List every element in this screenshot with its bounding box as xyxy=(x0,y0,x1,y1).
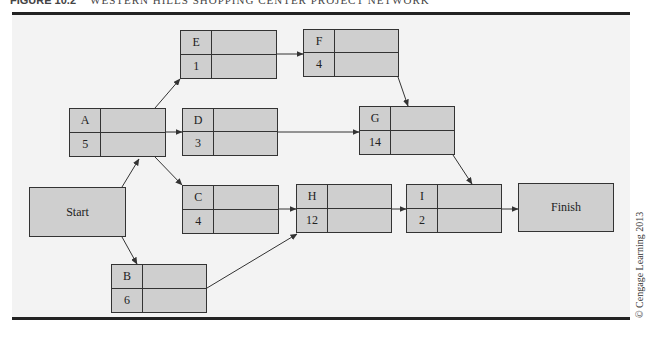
node-es-cell xyxy=(214,109,277,132)
node-es-cell xyxy=(212,31,276,55)
node-start-label: Start xyxy=(66,205,89,220)
node-es-cell xyxy=(214,186,278,210)
node-label: D xyxy=(183,109,214,132)
bottom-rule xyxy=(12,317,630,320)
node-label: H xyxy=(297,185,328,209)
node-ls-cell xyxy=(335,53,398,76)
node-label: A xyxy=(70,109,101,133)
node-duration: 12 xyxy=(297,209,328,233)
node-c: C 4 xyxy=(182,185,279,234)
node-finish-label: Finish xyxy=(551,200,581,215)
node-label: G xyxy=(360,107,391,131)
node-ls-cell xyxy=(143,289,206,313)
node-start: Start xyxy=(29,187,126,237)
node-h: H 12 xyxy=(296,184,392,233)
node-label: E xyxy=(181,31,212,55)
node-ls-cell xyxy=(214,132,277,155)
node-e: E 1 xyxy=(180,30,277,79)
node-d: D 3 xyxy=(182,108,278,156)
edge-b-h xyxy=(207,234,297,288)
node-duration: 4 xyxy=(183,210,214,234)
edge-g-i xyxy=(453,155,472,184)
edge-a-c xyxy=(155,157,182,185)
edge-f-g xyxy=(398,77,408,106)
node-duration: 4 xyxy=(304,53,335,76)
node-duration: 2 xyxy=(407,209,438,233)
node-f: F 4 xyxy=(303,29,399,77)
node-ls-cell xyxy=(214,210,278,234)
node-es-cell xyxy=(391,107,454,131)
node-label: B xyxy=(112,265,143,289)
node-duration: 6 xyxy=(112,289,143,313)
node-ls-cell xyxy=(212,55,276,79)
node-label: C xyxy=(183,186,214,210)
edge-start-b xyxy=(122,237,137,264)
node-duration: 1 xyxy=(181,55,212,79)
node-ls-cell xyxy=(328,209,391,233)
node-i: I 2 xyxy=(406,184,502,233)
edge-start-a xyxy=(122,159,139,187)
edge-a-e xyxy=(155,79,180,108)
node-g: G 14 xyxy=(359,106,455,155)
node-finish: Finish xyxy=(518,183,614,232)
node-es-cell xyxy=(335,30,398,53)
node-es-cell xyxy=(328,185,391,209)
node-es-cell xyxy=(101,109,165,133)
node-duration: 5 xyxy=(70,133,101,157)
node-ls-cell xyxy=(438,209,501,233)
node-duration: 3 xyxy=(183,132,214,155)
node-es-cell xyxy=(438,185,501,209)
node-duration: 14 xyxy=(360,131,391,155)
node-b: B 6 xyxy=(111,264,207,313)
node-ls-cell xyxy=(101,133,165,157)
node-ls-cell xyxy=(391,131,454,155)
copyright-notice: © Cengage Learning 2013 xyxy=(634,212,645,318)
node-a: A 5 xyxy=(69,108,166,157)
node-es-cell xyxy=(143,265,206,289)
node-label: F xyxy=(304,30,335,53)
node-label: I xyxy=(407,185,438,209)
